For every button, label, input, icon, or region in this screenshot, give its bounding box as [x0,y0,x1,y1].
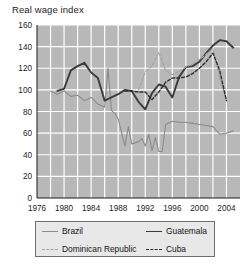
chart-legend: Brazil Guatemala Dominican Republic Cuba [35,221,215,257]
legend-item-dominican-republic[interactable]: Dominican Republic [36,245,140,254]
y-axis-tick-label: 80 [23,108,33,117]
x-axis-tick-label: 1992 [136,204,155,211]
legend-swatch-dominican-republic [42,246,58,253]
x-axis-tick-label: 1976 [28,204,47,211]
y-axis-tick-label: 160 [18,21,32,30]
y-axis-tick-label: 100 [18,86,32,95]
legend-swatch-guatemala [146,228,162,235]
y-axis-tick-label: 60 [23,129,33,138]
legend-label-guatemala: Guatemala [166,227,207,236]
y-axis-tick-label: 140 [18,43,32,52]
chart-figure: Real wage index 020406080100120140160197… [0,0,250,265]
chart-title: Real wage index [12,4,84,15]
legend-item-guatemala[interactable]: Guatemala [140,227,216,236]
y-axis-tick-label: 120 [18,64,32,73]
chart-canvas: 0204060801001201401601976198019841988199… [0,16,250,211]
legend-item-cuba[interactable]: Cuba [140,245,216,254]
legend-swatch-cuba [146,246,162,253]
y-axis-tick-label: 20 [23,172,33,181]
legend-label-brazil: Brazil [62,227,83,236]
x-axis-tick-label: 1988 [109,204,128,211]
x-axis-tick-label: 2004 [217,204,236,211]
legend-swatch-brazil [42,228,58,235]
y-axis-tick-label: 40 [23,151,33,160]
x-axis-tick-label: 2000 [190,204,209,211]
legend-item-brazil[interactable]: Brazil [36,227,140,236]
legend-label-dominican-republic: Dominican Republic [62,245,136,254]
x-axis-tick-label: 1980 [55,204,74,211]
plot-area: 0204060801001201401601976198019841988199… [0,16,250,211]
x-axis-tick-label: 1984 [82,204,101,211]
y-axis-tick-label: 0 [27,194,32,203]
x-axis-tick-label: 1996 [163,204,182,211]
legend-label-cuba: Cuba [166,245,186,254]
